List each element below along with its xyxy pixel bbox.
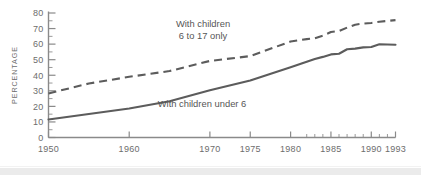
y-tick-label: 0 (38, 133, 43, 143)
annotation-children-6-to-17-line-1: With children (176, 18, 230, 29)
screenshot-root: PERCENTAGE 01020304050607080 19501960197… (0, 0, 421, 175)
x-tick-label: 1960 (119, 144, 140, 154)
x-tick-label: 1970 (199, 144, 220, 154)
y-tick-label: 60 (33, 39, 44, 49)
y-axis-tick-labels: 01020304050607080 (33, 8, 44, 143)
y-tick-label: 50 (33, 55, 44, 65)
y-tick-label: 10 (33, 117, 44, 127)
x-tick-label: 1990 (361, 144, 382, 154)
x-tick-label: 1950 (38, 144, 59, 154)
x-axis-tick-labels: 19501960197019751980198519901993 (38, 144, 406, 154)
x-tick-label: 1980 (280, 144, 301, 154)
y-tick-label: 70 (33, 24, 44, 34)
x-tick-label: 1993 (385, 144, 406, 154)
x-tick-label: 1985 (320, 144, 341, 154)
annotation-children-6-to-17-line-2: 6 to 17 only (179, 30, 228, 41)
x-axis-ticks (49, 132, 396, 138)
x-tick-label: 1975 (240, 144, 261, 154)
y-axis-label: PERCENTAGE (10, 46, 19, 104)
y-tick-label: 40 (33, 71, 44, 81)
line-chart: PERCENTAGE 01020304050607080 19501960197… (0, 0, 421, 175)
y-tick-label: 30 (33, 86, 44, 96)
annotation-children-under-6-line-1: With children under 6 (158, 98, 247, 109)
y-tick-label: 80 (33, 8, 44, 18)
y-tick-label: 20 (33, 102, 44, 112)
